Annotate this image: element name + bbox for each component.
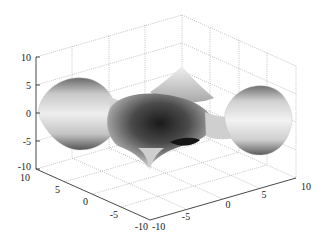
surface-plot: 10 5 0 -5 -10 10 5 0 -5 -10 -10 -5 0 5 1…	[0, 0, 323, 245]
x-tick: 10	[301, 181, 311, 192]
y-tick: 10	[20, 172, 30, 183]
x-tick: 0	[226, 199, 231, 210]
x-tick: -5	[182, 211, 190, 222]
x-tick-labels: -10 -5 0 5 10	[152, 181, 311, 232]
surface	[38, 66, 292, 170]
z-tick: -10	[18, 161, 31, 172]
z-tick-labels: 10 5 0 -5 -10	[18, 52, 31, 172]
y-tick: 5	[55, 184, 60, 195]
x-axis-line	[150, 178, 296, 220]
y-tick-labels: 10 5 0 -5 -10	[20, 172, 148, 232]
z-tick: 0	[26, 108, 31, 119]
y-axis-line	[36, 169, 150, 220]
z-tick: -5	[23, 136, 31, 147]
z-tick: 5	[26, 80, 31, 91]
x-tick: 5	[262, 189, 267, 200]
y-tick: -10	[135, 221, 148, 232]
y-tick: -5	[110, 209, 118, 220]
x-tick: -10	[152, 221, 165, 232]
y-tick: 0	[83, 196, 88, 207]
z-tick: 10	[21, 52, 31, 63]
